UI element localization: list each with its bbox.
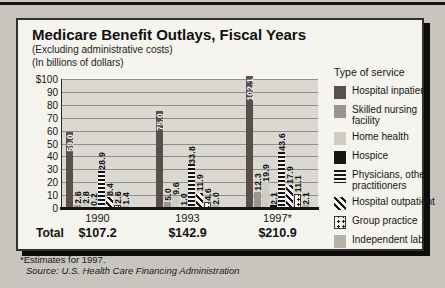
bar-stripes-horizontal <box>98 171 105 208</box>
legend-item-label: Hospital inpatient <box>352 86 429 97</box>
x-axis-year-label: 1997* <box>246 212 310 224</box>
bar-value-label: 11.1 <box>293 175 303 192</box>
y-tick-label: 0 <box>14 203 58 214</box>
footnote-estimates: *Estimates for 1997. <box>20 254 106 265</box>
legend-item-label: Home health <box>352 132 409 143</box>
legend-swatch-icon <box>334 132 346 145</box>
bar-solid-light <box>262 182 269 208</box>
chart-subtitle-costs: (Excluding administrative costs) <box>32 44 173 55</box>
legend: Type of service Hospital inpatientSkille… <box>334 66 438 254</box>
bar-stripes-horizontal <box>278 152 285 208</box>
legend-swatch-icon <box>334 170 346 183</box>
legend-item-label: Group practice <box>352 216 418 227</box>
legend-item: Home health <box>334 132 438 145</box>
legend-item-label: Physicians, other practitioners <box>352 170 438 191</box>
y-tick-label: 10 <box>14 190 58 201</box>
scanned-chart-page: Medicare Benefit Outlays, Fiscal Years (… <box>0 0 445 288</box>
bar-value-label: 102.1 <box>245 78 255 101</box>
y-tick-label: 40 <box>14 151 58 162</box>
bar-solid-medium <box>254 192 261 208</box>
page-top-rule <box>0 2 445 5</box>
y-axis-line <box>61 79 62 208</box>
bar-solid-dark: 59.0 <box>66 132 73 208</box>
gridline <box>62 79 318 80</box>
legend-swatch-icon <box>334 151 346 164</box>
footnote-source: Source: U.S. Health Care Financing Admin… <box>26 265 240 276</box>
legend-item: Hospital inpatient <box>334 86 438 99</box>
total-value: $142.9 <box>148 226 228 240</box>
legend-item: Hospice <box>334 151 438 164</box>
legend-item-label: Hospital outpatient <box>352 197 435 208</box>
chart-title: Medicare Benefit Outlays, Fiscal Years <box>32 26 306 43</box>
bar-stripes-diagonal <box>196 193 203 208</box>
bar-value-label: 2.0 <box>211 192 221 205</box>
x-axis-year-label: 1993 <box>156 212 220 224</box>
gridline <box>62 118 318 119</box>
legend-swatch-icon <box>334 105 346 118</box>
bar-value-label: 43.6 <box>277 133 287 151</box>
bar-value-label: 19.9 <box>261 164 271 182</box>
bar-value-label: 28.9 <box>97 152 107 170</box>
gridline <box>62 92 318 93</box>
bar-value-label: 59.0 <box>65 134 75 152</box>
x-axis-year-label: 1990 <box>66 212 130 224</box>
legend-item: Hospital outpatient <box>334 197 438 210</box>
gridline <box>62 105 318 106</box>
legend-header: Type of service <box>334 66 438 78</box>
legend-item: Independent labs <box>334 235 438 248</box>
y-tick-label: 20 <box>14 177 58 188</box>
bar-stripes-diagonal <box>286 185 293 208</box>
legend-swatch-icon <box>334 86 346 99</box>
legend-item: Physicians, other practitioners <box>334 170 438 191</box>
y-tick-label: $100 <box>14 74 58 85</box>
y-tick-label: 50 <box>14 139 58 150</box>
y-tick-label: 30 <box>14 164 58 175</box>
bar-solid-dark: 75.0 <box>156 111 163 208</box>
bar-value-label: 33.8 <box>187 146 197 164</box>
legend-item-label: Hospice <box>352 151 388 162</box>
bar-value-label: 75.0 <box>155 113 165 131</box>
legend-swatch-icon <box>334 197 346 210</box>
gridline <box>62 131 318 132</box>
total-value: $210.9 <box>238 226 318 240</box>
y-tick-label: 90 <box>14 87 58 98</box>
legend-item: Skilled nursing facility <box>334 105 438 126</box>
bar-value-label: 2.1 <box>301 192 311 205</box>
legend-item: Group practice <box>334 216 438 229</box>
y-tick-label: 60 <box>14 126 58 137</box>
bar-solid-dark: 102.1 <box>246 76 253 208</box>
legend-item-label: Independent labs <box>352 235 429 246</box>
y-tick-label: 70 <box>14 113 58 124</box>
legend-item-label: Skilled nursing facility <box>352 105 438 126</box>
chart-subtitle-units: (In billions of dollars) <box>32 57 124 68</box>
bar-value-label: 1.4 <box>121 192 131 205</box>
legend-swatch-icon <box>334 235 346 248</box>
x-axis-baseline <box>60 207 319 210</box>
y-tick-label: 80 <box>14 100 58 111</box>
bar-dots <box>294 194 301 208</box>
legend-swatch-icon <box>334 216 346 229</box>
bar-stripes-horizontal <box>188 164 195 208</box>
total-value: $107.2 <box>58 226 138 240</box>
legend-items: Hospital inpatientSkilled nursing facili… <box>334 86 438 248</box>
